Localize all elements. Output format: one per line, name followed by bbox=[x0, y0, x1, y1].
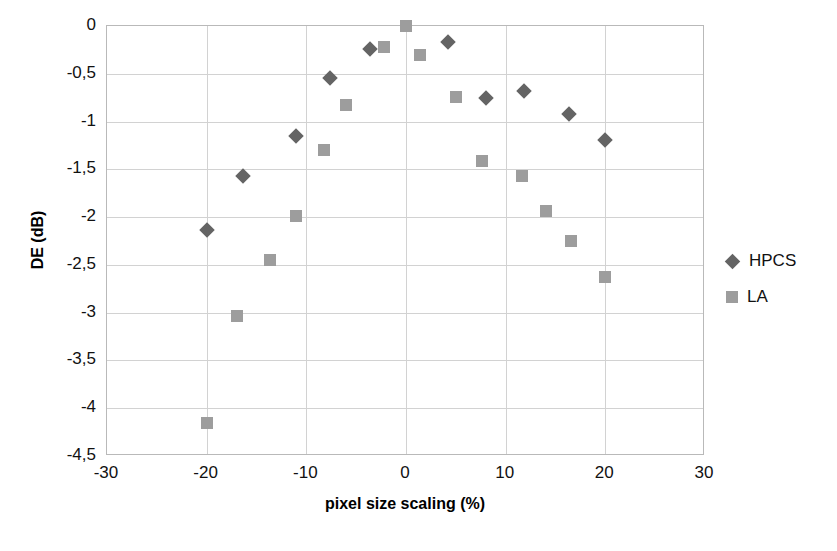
gridline-horizontal bbox=[107, 313, 703, 314]
plot-area bbox=[106, 25, 704, 455]
data-point-la bbox=[599, 271, 611, 283]
data-point-hpcs bbox=[598, 132, 614, 148]
gridline-horizontal bbox=[107, 217, 703, 218]
gridline-vertical bbox=[406, 26, 407, 454]
data-point-hpcs bbox=[516, 83, 532, 99]
x-axis-tick-label: -30 bbox=[94, 463, 119, 483]
data-point-hpcs bbox=[289, 128, 305, 144]
legend-item-la[interactable]: LA bbox=[726, 279, 796, 315]
gridline-vertical bbox=[605, 26, 606, 454]
gridline-vertical bbox=[306, 26, 307, 454]
legend-item-label: HPCS bbox=[749, 251, 796, 271]
data-point-la bbox=[201, 417, 213, 429]
y-axis-tick-label: 0 bbox=[40, 15, 96, 35]
data-point-hpcs bbox=[362, 41, 378, 57]
y-axis-tick-label: -1,5 bbox=[40, 158, 96, 178]
data-point-hpcs bbox=[322, 70, 338, 86]
gridline-horizontal bbox=[107, 408, 703, 409]
chart-legend: HPCSLA bbox=[726, 243, 796, 315]
x-axis-tick-label: 20 bbox=[595, 463, 614, 483]
x-axis-tick-label: 30 bbox=[695, 463, 714, 483]
x-axis-tick-label: 10 bbox=[495, 463, 514, 483]
y-axis-tick-label: -4 bbox=[40, 397, 96, 417]
legend-item-hpcs[interactable]: HPCS bbox=[726, 243, 796, 279]
y-axis-tick-label: -3 bbox=[40, 302, 96, 322]
gridline-vertical bbox=[207, 26, 208, 454]
x-axis-tick-label: -10 bbox=[293, 463, 318, 483]
data-point-hpcs bbox=[235, 168, 251, 184]
data-point-la bbox=[400, 20, 412, 32]
x-axis-tick-label: 0 bbox=[400, 463, 409, 483]
gridline-horizontal bbox=[107, 360, 703, 361]
y-axis-tick-label: -0,5 bbox=[40, 63, 96, 83]
data-point-la bbox=[565, 235, 577, 247]
data-point-la bbox=[231, 310, 243, 322]
data-point-la bbox=[540, 205, 552, 217]
y-axis-tick-label: -3,5 bbox=[40, 349, 96, 369]
gridline-vertical bbox=[506, 26, 507, 454]
data-point-la bbox=[318, 144, 330, 156]
gridline-horizontal bbox=[107, 169, 703, 170]
x-axis-title: pixel size scaling (%) bbox=[106, 495, 704, 513]
gridline-horizontal bbox=[107, 74, 703, 75]
data-point-la bbox=[414, 49, 426, 61]
data-point-hpcs bbox=[199, 222, 215, 238]
gridline-horizontal bbox=[107, 265, 703, 266]
y-axis-tick-label: -4,5 bbox=[40, 445, 96, 465]
data-point-la bbox=[476, 155, 488, 167]
scan-artifact bbox=[640, 505, 810, 517]
data-point-la bbox=[450, 91, 462, 103]
y-axis-tick-label: -2 bbox=[40, 206, 96, 226]
gridline-horizontal bbox=[107, 122, 703, 123]
y-axis-tick-label: -1 bbox=[40, 111, 96, 131]
legend-item-label: LA bbox=[747, 287, 768, 307]
data-point-la bbox=[290, 210, 302, 222]
data-point-la bbox=[516, 170, 528, 182]
data-point-hpcs bbox=[440, 34, 456, 50]
y-axis-tick-label: -2,5 bbox=[40, 254, 96, 274]
x-axis-tick-label: -20 bbox=[193, 463, 218, 483]
scatter-chart: DE (dB) 0-0,5-1-1,5-2-2,5-3-3,5-4-4,5 -3… bbox=[0, 0, 837, 551]
diamond-marker-icon bbox=[725, 253, 741, 269]
square-marker-icon bbox=[726, 291, 738, 303]
data-point-la bbox=[378, 41, 390, 53]
data-point-la bbox=[340, 99, 352, 111]
data-point-hpcs bbox=[478, 90, 494, 106]
data-point-hpcs bbox=[562, 106, 578, 122]
data-point-la bbox=[264, 254, 276, 266]
